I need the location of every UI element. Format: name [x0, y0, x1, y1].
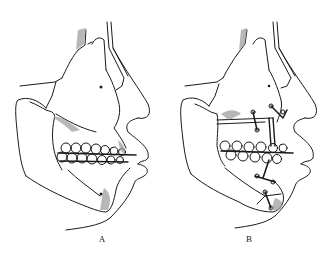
panel-label-a: A	[92, 234, 112, 244]
panel-a-illustration: A	[0, 0, 165, 253]
panel-label-b: B	[239, 234, 259, 244]
panel-b-illustration: B	[165, 0, 330, 253]
skull-profile-b-drawing	[165, 0, 330, 253]
skull-profile-a-drawing	[0, 0, 165, 253]
